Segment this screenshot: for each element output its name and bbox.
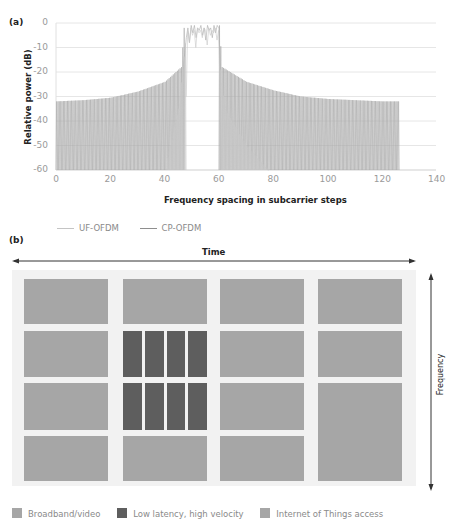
broadband-block	[220, 279, 304, 324]
broadband-block	[318, 331, 402, 377]
broadband-swatch-icon	[12, 508, 22, 518]
broadband-block	[220, 383, 304, 430]
broadband-block	[24, 331, 108, 377]
broadband-block	[220, 331, 304, 377]
low-latency-slot	[123, 331, 142, 377]
iot-block	[318, 383, 402, 481]
low-latency-swatch-icon	[117, 508, 127, 518]
low-latency-slot	[145, 331, 164, 377]
frequency-axis-label: Frequency	[436, 350, 445, 400]
low-latency-slot	[167, 331, 186, 377]
legend-item-iot: Internet of Things access	[260, 509, 383, 519]
broadband-block	[123, 436, 207, 481]
broadband-block	[24, 279, 108, 324]
panel-b-legend: Broadband/video Low latency, high veloci…	[12, 502, 383, 521]
broadband-block	[220, 436, 304, 481]
legend-item-low-latency: Low latency, high velocity	[117, 509, 246, 519]
low-latency-slot	[167, 383, 186, 430]
legend-item-broadband: Broadband/video	[12, 509, 103, 519]
broadband-block	[24, 383, 108, 430]
broadband-block	[123, 279, 207, 324]
arrow-down-icon	[429, 484, 434, 491]
low-latency-slot	[188, 331, 207, 377]
broadband-block	[24, 436, 108, 481]
arrow-right-icon	[409, 259, 416, 264]
low-latency-slot	[145, 383, 164, 430]
low-latency-slot	[188, 383, 207, 430]
arrow-left-icon	[12, 259, 19, 264]
iot-swatch-icon	[260, 508, 270, 518]
arrow-up-icon	[429, 273, 434, 280]
low-latency-slot	[123, 383, 142, 430]
broadband-block	[318, 279, 402, 324]
resource-grid	[12, 270, 416, 486]
